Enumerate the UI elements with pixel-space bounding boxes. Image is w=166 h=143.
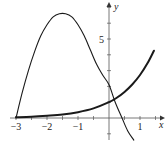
x-tick-label: −3 <box>11 121 22 132</box>
y-axis-label: y <box>113 1 119 12</box>
x-tick-label: −2 <box>42 121 53 132</box>
tick-marks <box>16 7 156 133</box>
chart: −3−2−115 x y <box>0 0 166 143</box>
series-lines <box>16 13 154 140</box>
y-axis-arrow-icon <box>107 2 112 7</box>
axes: −3−2−115 x y <box>10 1 165 140</box>
y-tick-label: 5 <box>99 34 104 45</box>
x-axis-label: x <box>158 119 164 130</box>
exponential-curve <box>16 51 154 118</box>
x-tick-label: 1 <box>138 121 143 132</box>
x-tick-label: −1 <box>73 121 84 132</box>
